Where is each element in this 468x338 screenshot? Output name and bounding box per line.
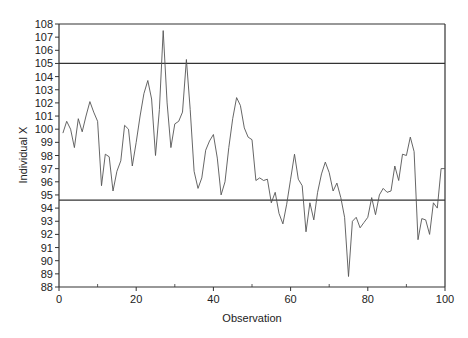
x-axis-label: Observation [222, 312, 281, 324]
y-tick-label: 94 [41, 202, 53, 214]
control-limit-lines [59, 63, 445, 200]
control-chart: 8889909192939495969798991001011021031041… [0, 0, 468, 338]
x-tick-label: 80 [362, 293, 374, 305]
x-tick-label: 20 [130, 293, 142, 305]
y-tick-label: 96 [41, 176, 53, 188]
x-tick-label: 40 [207, 293, 219, 305]
series-line [63, 31, 445, 277]
y-tick-label: 106 [35, 44, 53, 56]
y-tick-label: 108 [35, 18, 53, 30]
y-tick-label: 100 [35, 123, 53, 135]
y-tick-label: 92 [41, 228, 53, 240]
y-tick-label: 103 [35, 84, 53, 96]
y-axis-label: Individual X [17, 126, 29, 184]
y-axis-ticks: 8889909192939495969798991001011021031041… [35, 18, 59, 293]
y-tick-label: 95 [41, 189, 53, 201]
y-tick-label: 88 [41, 281, 53, 293]
y-tick-label: 102 [35, 97, 53, 109]
y-tick-label: 104 [35, 71, 53, 83]
y-tick-label: 97 [41, 163, 53, 175]
y-tick-label: 107 [35, 31, 53, 43]
y-tick-label: 91 [41, 242, 53, 254]
y-tick-label: 89 [41, 268, 53, 280]
y-tick-label: 101 [35, 110, 53, 122]
y-tick-label: 105 [35, 57, 53, 69]
x-tick-label: 100 [436, 293, 454, 305]
x-tick-label: 60 [284, 293, 296, 305]
y-tick-label: 98 [41, 150, 53, 162]
data-series [63, 31, 445, 277]
x-tick-label: 0 [56, 293, 62, 305]
y-tick-label: 90 [41, 255, 53, 267]
y-tick-label: 99 [41, 136, 53, 148]
y-tick-label: 93 [41, 215, 53, 227]
